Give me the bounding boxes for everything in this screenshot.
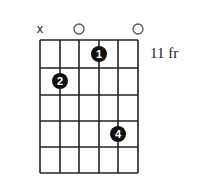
svg-text:4: 4 (115, 128, 122, 140)
finger-dots: 1 2 4 (52, 46, 126, 142)
open-string-icon (133, 24, 143, 34)
svg-text:1: 1 (96, 48, 102, 60)
string-markers: x (37, 21, 143, 36)
fretboard-grid (40, 40, 138, 173)
chord-diagram: x 1 2 4 (0, 0, 208, 180)
open-string-icon (74, 24, 84, 34)
muted-string-icon: x (37, 21, 44, 36)
fret-position-label: 11 fr (150, 45, 178, 62)
svg-text:2: 2 (57, 75, 63, 87)
